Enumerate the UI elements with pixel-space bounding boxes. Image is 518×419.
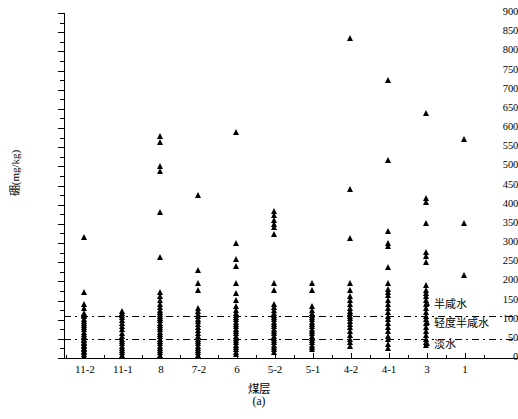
data-point bbox=[423, 253, 429, 259]
data-point bbox=[195, 352, 201, 358]
x-tick-label: 1 bbox=[438, 363, 492, 375]
data-point bbox=[233, 297, 239, 303]
x-axis-title-text: 煤层 bbox=[248, 383, 270, 395]
data-point bbox=[271, 287, 277, 293]
data-point bbox=[423, 110, 429, 116]
data-point bbox=[461, 136, 467, 142]
x-axis-line bbox=[64, 358, 518, 359]
legend-item: 淡水 bbox=[424, 336, 456, 350]
y-tick bbox=[58, 358, 65, 359]
data-point bbox=[347, 35, 353, 41]
data-point bbox=[195, 280, 201, 286]
legend-marker-triangle-icon bbox=[424, 340, 430, 346]
data-point bbox=[271, 224, 277, 230]
data-point bbox=[233, 256, 239, 262]
data-point bbox=[309, 280, 315, 286]
data-point bbox=[271, 231, 277, 237]
data-point bbox=[81, 234, 87, 240]
data-point bbox=[385, 345, 391, 351]
data-point bbox=[347, 235, 353, 241]
data-point bbox=[195, 287, 201, 293]
data-point bbox=[461, 272, 467, 278]
data-point bbox=[233, 240, 239, 246]
data-point bbox=[119, 352, 125, 358]
data-point bbox=[385, 280, 391, 286]
data-point bbox=[157, 168, 163, 174]
legend-marker-triangle-icon bbox=[424, 300, 430, 306]
figure-tag-text: (a) bbox=[253, 395, 266, 407]
data-point bbox=[157, 352, 163, 358]
data-point bbox=[309, 346, 315, 352]
data-point bbox=[385, 157, 391, 163]
figure-tag: (a) bbox=[0, 395, 518, 407]
data-point bbox=[157, 209, 163, 215]
legend-label: 轻度半咸水 bbox=[434, 314, 489, 330]
legend-label: 淡水 bbox=[434, 335, 456, 351]
legend-item: 轻度半咸水 bbox=[424, 315, 489, 329]
data-point bbox=[233, 351, 239, 357]
legend-label: 半咸水 bbox=[434, 295, 467, 311]
data-point bbox=[461, 220, 467, 226]
y-axis-title: 硼(mg/kg) bbox=[4, 0, 24, 345]
data-point bbox=[309, 287, 315, 293]
data-point bbox=[195, 192, 201, 198]
data-point bbox=[423, 220, 429, 226]
data-point bbox=[385, 264, 391, 270]
x-axis-title: 煤层 bbox=[0, 380, 518, 396]
data-point bbox=[385, 77, 391, 83]
data-point bbox=[347, 280, 353, 286]
data-point bbox=[81, 353, 87, 359]
data-point bbox=[157, 133, 163, 139]
data-point bbox=[157, 139, 163, 145]
y-axis-title-text: 硼(mg/kg) bbox=[6, 149, 22, 195]
chart-figure: 硼(mg/kg) 0501001502002503003504004505005… bbox=[0, 0, 518, 419]
data-point bbox=[423, 199, 429, 205]
data-point bbox=[195, 267, 201, 273]
data-point bbox=[233, 129, 239, 135]
data-point bbox=[347, 343, 353, 349]
data-point bbox=[233, 280, 239, 286]
data-point bbox=[385, 243, 391, 249]
data-point bbox=[233, 290, 239, 296]
data-point bbox=[385, 228, 391, 234]
data-point bbox=[347, 186, 353, 192]
legend-item: 半咸水 bbox=[424, 296, 467, 310]
data-point bbox=[157, 254, 163, 260]
data-point bbox=[271, 349, 277, 355]
data-point bbox=[81, 289, 87, 295]
data-point bbox=[233, 263, 239, 269]
data-point bbox=[271, 280, 277, 286]
data-point bbox=[347, 287, 353, 293]
data-point bbox=[423, 259, 429, 265]
legend-marker-triangle-icon bbox=[424, 319, 430, 325]
